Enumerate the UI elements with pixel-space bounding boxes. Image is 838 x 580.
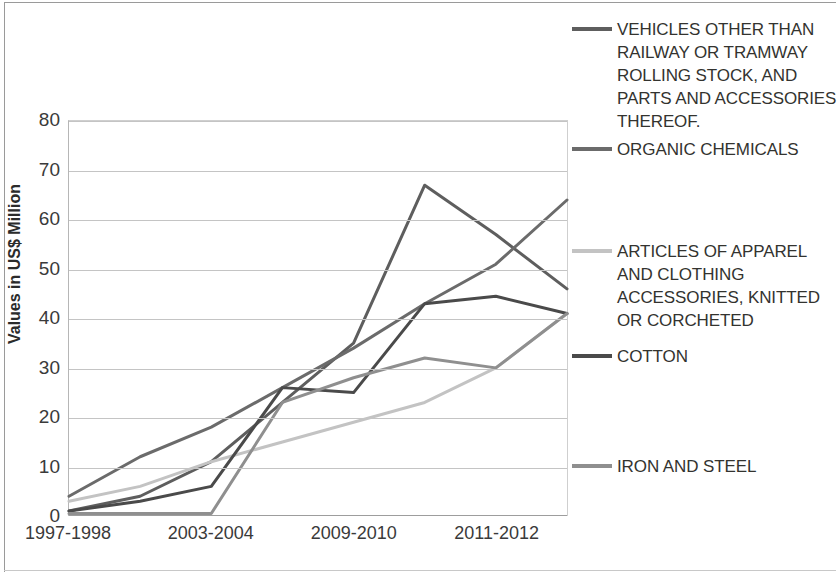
series-line <box>69 296 567 511</box>
series-line <box>69 200 567 496</box>
chart-legend: VEHICLES OTHER THAN RAILWAY OR TRAMWAY R… <box>572 0 838 580</box>
gridline <box>69 369 567 370</box>
y-axis-tick-label: 70 <box>4 160 60 179</box>
legend-label: COTTON <box>617 345 838 368</box>
legend-entry[interactable]: COTTON <box>572 345 838 368</box>
gridline <box>69 121 567 122</box>
gridline <box>69 220 567 221</box>
x-axis-tick-label: 2003-2004 <box>146 524 276 544</box>
legend-color-swatch <box>572 354 612 358</box>
chart-screenshot: Values in US$ Million 80706050403020100 … <box>0 0 838 580</box>
legend-color-swatch <box>572 27 612 31</box>
gridline <box>69 319 567 320</box>
legend-entry[interactable]: ORGANIC CHEMICALS <box>572 138 838 161</box>
line-chart: Values in US$ Million 80706050403020100 … <box>0 0 580 580</box>
legend-entry[interactable]: VEHICLES OTHER THAN RAILWAY OR TRAMWAY R… <box>572 18 838 133</box>
y-axis-tick-labels: 80706050403020100 <box>0 120 68 516</box>
series-line <box>69 314 567 514</box>
legend-color-swatch <box>572 464 612 468</box>
x-axis-tick-labels: 1997-19982003-20042009-20102011-2012 <box>68 524 568 554</box>
legend-color-swatch <box>572 249 612 253</box>
gridline <box>69 171 567 172</box>
legend-label: ORGANIC CHEMICALS <box>617 138 838 161</box>
x-axis-tick-label: 2011-2012 <box>432 524 562 544</box>
y-axis-tick-label: 30 <box>4 358 60 377</box>
legend-color-swatch <box>572 147 612 151</box>
y-axis-tick-label: 20 <box>4 407 60 426</box>
gridline <box>69 468 567 469</box>
y-axis-tick-label: 80 <box>4 110 60 129</box>
legend-entry[interactable]: IRON AND STEEL <box>572 455 838 478</box>
series-line <box>69 314 567 502</box>
legend-label: VEHICLES OTHER THAN RAILWAY OR TRAMWAY R… <box>617 18 838 133</box>
y-axis-tick-label: 10 <box>4 457 60 476</box>
y-axis-tick-label: 50 <box>4 259 60 278</box>
legend-label: IRON AND STEEL <box>617 455 838 478</box>
plot-area <box>68 120 568 516</box>
y-axis-tick-label: 40 <box>4 308 60 327</box>
gridline <box>69 270 567 271</box>
legend-entry[interactable]: ARTICLES OF APPAREL AND CLOTHING ACCESSO… <box>572 240 838 332</box>
x-axis-tick-label: 2009-2010 <box>289 524 419 544</box>
x-axis-tick-label: 1997-1998 <box>3 524 133 544</box>
y-axis-tick-label: 60 <box>4 209 60 228</box>
series-line <box>69 185 567 511</box>
legend-label: ARTICLES OF APPAREL AND CLOTHING ACCESSO… <box>617 240 838 332</box>
gridline <box>69 418 567 419</box>
